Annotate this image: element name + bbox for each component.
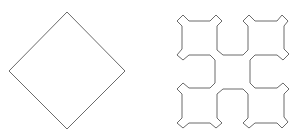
figure-svg — [0, 0, 300, 139]
fractal-curve-shape — [177, 15, 289, 128]
figure-canvas — [0, 0, 300, 139]
diamond-shape — [9, 12, 125, 129]
